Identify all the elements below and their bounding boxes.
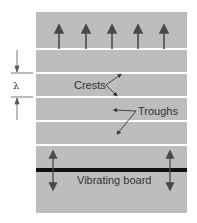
vibrating-board [36,168,187,172]
wavelength-label: λ [13,80,20,91]
board-label: Vibrating board [77,174,151,186]
troughs-label: Troughs [138,105,178,117]
sound-wave-diagram: λ Crests Troughs Vibrating board [0,0,197,223]
arrow-down-icon [15,66,19,72]
crests-label: Crests [74,79,106,91]
arrow-up-icon [15,98,19,104]
